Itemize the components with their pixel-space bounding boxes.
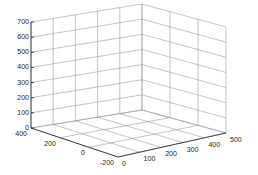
side-wall-grid-z — [142, 110, 226, 133]
floor-grid-x — [75, 121, 161, 148]
tick-labels: 0100200300400500600700-20002004000100200… — [15, 18, 241, 167]
back-wall-grid-z — [31, 34, 142, 52]
back-wall-grid-z — [31, 80, 142, 98]
back-wall-grid-z — [31, 65, 142, 83]
x-tick-label: 100 — [144, 155, 156, 162]
side-wall-grid-z — [142, 34, 226, 57]
side-wall-grid-z — [142, 95, 226, 118]
z-tick-label: 200 — [17, 94, 29, 101]
axis-lines — [31, 22, 226, 157]
x-tick-label: 400 — [208, 141, 220, 148]
y-tick-label: 400 — [15, 130, 27, 137]
back-wall-grid-z — [31, 95, 142, 113]
x-tick-label: 200 — [165, 150, 177, 157]
back-wall-grid-z — [31, 19, 142, 37]
floor-grid-x — [120, 114, 205, 138]
floor-grid-x — [98, 117, 183, 142]
side-wall-grid-z — [142, 4, 226, 27]
z-tick-label: 700 — [17, 18, 29, 25]
side-wall-grid-z — [142, 80, 226, 103]
back-wall-grid-z — [31, 4, 142, 22]
floor-grid-x — [53, 124, 139, 152]
grid-lines — [31, 4, 226, 157]
y-tick-label: -200 — [100, 159, 114, 166]
y-tick-label: 200 — [44, 140, 56, 147]
side-wall-grid-z — [142, 65, 226, 88]
z-tick-label: 600 — [17, 33, 29, 40]
z-tick-label: 300 — [17, 79, 29, 86]
z-tick-label: 400 — [17, 63, 29, 70]
y-tick-label: 0 — [81, 149, 85, 156]
z-tick-label: 100 — [17, 109, 29, 116]
side-wall-grid-z — [142, 19, 226, 42]
back-wall-grid-z — [31, 49, 142, 67]
floor-grid-y — [89, 125, 198, 147]
x-tick-label: 0 — [122, 160, 126, 167]
x-tick-label: 500 — [230, 136, 242, 143]
side-wall-grid-z — [142, 49, 226, 72]
3d-plot-axes: 0100200300400500600700-20002004000100200… — [0, 0, 258, 175]
x-tick-label: 300 — [187, 146, 199, 153]
z-tick-label: 500 — [17, 48, 29, 55]
